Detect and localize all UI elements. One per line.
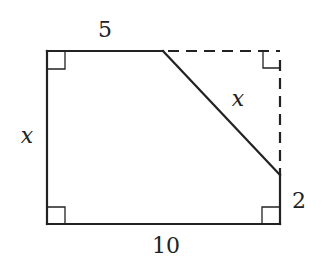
- label-bottom-10: 10: [152, 233, 180, 258]
- right-angle-mark-top-left: [47, 51, 65, 69]
- diagonal-edge: [163, 51, 280, 175]
- label-left-x: x: [21, 123, 34, 148]
- right-angle-mark-bottom-left: [47, 207, 65, 224]
- solid-outline: [47, 51, 280, 224]
- label-diagonal-x: x: [232, 86, 245, 111]
- label-right-2: 2: [292, 188, 306, 213]
- right-angle-mark-removed-corner: [263, 51, 280, 68]
- right-angle-mark-bottom-right: [262, 207, 280, 224]
- geometry-diagram: 5 x x 10 2: [0, 0, 322, 270]
- label-top-5: 5: [98, 17, 112, 42]
